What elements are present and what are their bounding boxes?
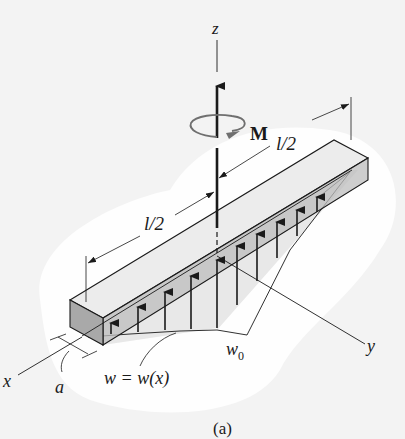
load-function-label: w = w(x) <box>104 368 169 389</box>
moment-label: M <box>250 123 268 144</box>
figure-caption: (a) <box>213 419 232 438</box>
z-axis-label: z <box>211 19 219 38</box>
half-length-upper-label: l/2 <box>276 133 297 154</box>
figure-canvas: z M l/2 l/2 w0 y x a w = w(x) (a) <box>0 0 405 439</box>
beam-diagram: z M l/2 l/2 w0 y x a w = w(x) (a) <box>0 0 405 439</box>
y-axis-label: y <box>365 336 375 356</box>
load-peak-subscript: 0 <box>238 349 244 363</box>
x-axis-label: x <box>2 371 11 391</box>
load-peak-w: w <box>226 339 238 359</box>
half-length-lower-label: l/2 <box>144 213 165 234</box>
width-label: a <box>55 377 64 397</box>
dim-line-upper-right <box>312 104 349 120</box>
